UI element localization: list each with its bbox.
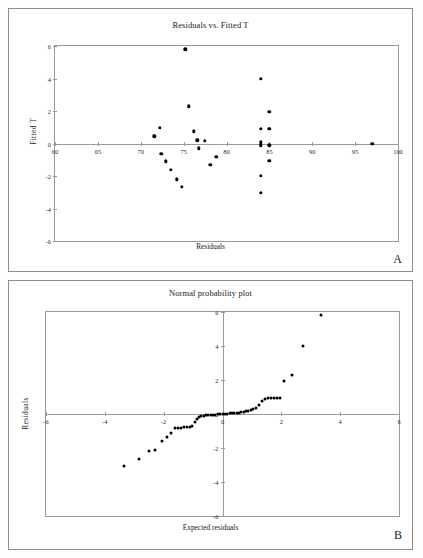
data-point <box>192 130 195 133</box>
y-axis-tick <box>53 144 57 145</box>
x-axis-tick-label: 2 <box>280 418 283 425</box>
data-point <box>153 134 156 137</box>
y-axis-tick-label: -2 <box>39 173 51 180</box>
data-point <box>302 345 305 348</box>
x-axis-tick <box>399 412 400 416</box>
x-axis-tick <box>227 142 228 146</box>
x-axis-tick <box>398 142 399 146</box>
x-axis-tick-label: 0 <box>221 418 224 425</box>
panel-b: Normal probability plot -6-4-202466420-2… <box>8 280 413 550</box>
y-axis-tick-label: -6 <box>207 513 219 520</box>
y-axis-tick-label: 6 <box>39 43 51 50</box>
data-point <box>191 425 194 428</box>
x-axis-tick-label: 95 <box>352 148 358 155</box>
data-point <box>187 104 190 107</box>
x-axis-tick <box>355 142 356 146</box>
y-axis-tick <box>53 111 57 112</box>
y-axis-tick <box>53 46 57 47</box>
panel-a-plot-area: 60657075808590951006420-2-4-6 <box>54 45 399 242</box>
data-point <box>197 147 200 150</box>
data-point <box>259 144 262 147</box>
x-axis-tick <box>141 142 142 146</box>
data-point <box>259 77 262 80</box>
x-axis-tick-label: 6 <box>397 418 400 425</box>
panel-a-xaxis-title: Residuals <box>9 242 412 251</box>
data-point <box>164 160 167 163</box>
data-point <box>180 185 183 188</box>
data-point <box>158 126 161 129</box>
x-axis-tick-label: 65 <box>95 148 101 155</box>
x-axis-tick <box>46 412 47 416</box>
y-axis-tick-label: 2 <box>207 377 219 384</box>
data-point <box>255 407 258 410</box>
data-point <box>259 191 262 194</box>
y-axis-tick <box>221 516 225 517</box>
y-axis-tick <box>221 312 225 313</box>
y-axis-tick-label: 4 <box>39 75 51 82</box>
x-axis-tick <box>312 142 313 146</box>
x-axis-tick-label: 75 <box>180 148 186 155</box>
panel-b-xaxis-title: Expected residuals <box>9 523 412 532</box>
data-point <box>169 168 172 171</box>
x-axis-tick <box>164 412 165 416</box>
x-axis-tick-label: -4 <box>102 418 107 425</box>
x-axis-tick <box>105 412 106 416</box>
data-point <box>175 178 178 181</box>
x-axis-tick-label: 70 <box>138 148 144 155</box>
panel-a-yaxis-title: Fitted T <box>29 102 38 162</box>
panel-a: Residuals vs. Fitted T 60657075808590951… <box>8 8 413 272</box>
data-point <box>184 48 187 51</box>
data-point <box>161 440 164 443</box>
data-point <box>165 435 168 438</box>
panel-b-letter: B <box>394 528 402 543</box>
y-axis-tick-label: 6 <box>207 309 219 316</box>
x-axis-tick <box>340 412 341 416</box>
y-axis-tick-label: 0 <box>39 140 51 147</box>
data-point <box>170 431 173 434</box>
data-point <box>268 143 271 146</box>
y-axis-tick <box>221 448 225 449</box>
x-axis-tick-label: 80 <box>223 148 229 155</box>
x-axis-tick <box>281 412 282 416</box>
data-point <box>160 152 163 155</box>
y-axis-tick-label: -4 <box>39 205 51 212</box>
y-axis-tick <box>53 176 57 177</box>
data-point <box>268 127 271 130</box>
data-point <box>209 163 212 166</box>
figure-page: Residuals vs. Fitted T 60657075808590951… <box>0 0 423 558</box>
data-point <box>215 155 218 158</box>
data-point <box>283 379 286 382</box>
y-axis-tick <box>221 380 225 381</box>
data-point <box>137 458 140 461</box>
data-point <box>258 403 261 406</box>
x-axis-tick <box>184 142 185 146</box>
panel-a-title: Residuals vs. Fitted T <box>9 20 412 30</box>
y-axis-tick <box>221 346 225 347</box>
x-axis-tick-label: 60 <box>52 148 58 155</box>
panel-b-yaxis-title: Residuals <box>21 384 30 444</box>
data-point <box>371 142 374 145</box>
data-point <box>122 464 125 467</box>
y-axis-tick-label: 2 <box>39 108 51 115</box>
data-point <box>259 174 262 177</box>
data-point <box>147 450 150 453</box>
x-axis-tick-label: -6 <box>43 418 48 425</box>
data-point <box>268 110 271 113</box>
x-axis-tick-label: 90 <box>309 148 315 155</box>
data-point <box>153 448 156 451</box>
x-axis-tick-label: 85 <box>266 148 272 155</box>
data-point <box>259 127 262 130</box>
x-axis-tick-label: 4 <box>339 418 342 425</box>
y-axis-tick <box>53 79 57 80</box>
y-axis-tick <box>221 482 225 483</box>
y-axis-tick <box>53 209 57 210</box>
panel-b-title: Normal probability plot <box>9 288 412 298</box>
y-axis-tick-label: -4 <box>207 479 219 486</box>
panel-a-letter: A <box>393 252 402 267</box>
data-point <box>320 314 323 317</box>
data-point <box>290 373 293 376</box>
x-axis-tick-label: 100 <box>393 148 403 155</box>
data-point <box>203 139 206 142</box>
y-axis-tick-label: -2 <box>207 445 219 452</box>
data-point <box>268 159 271 162</box>
